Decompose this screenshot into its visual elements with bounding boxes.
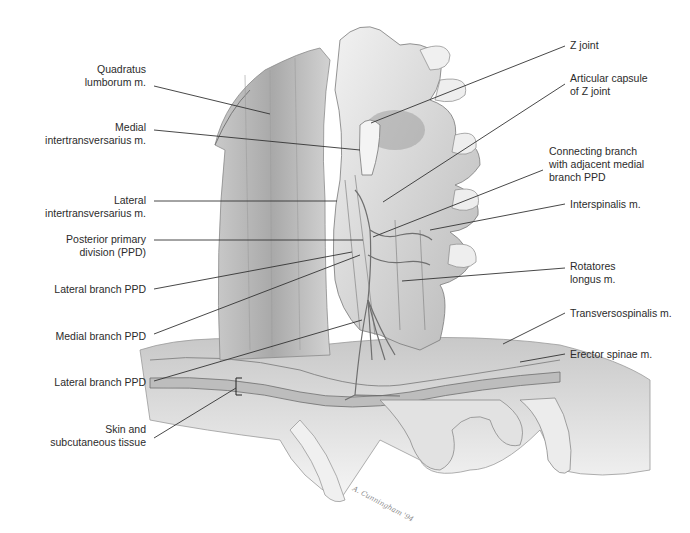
label-medial-intertransversarius: Medialintertransversarius m. xyxy=(45,121,146,147)
label-skin-subcutaneous-tissue: Skin andsubcutaneous tissue xyxy=(50,423,146,449)
label-z-joint: Z joint xyxy=(570,39,599,52)
label-transversospinalis: Transversospinalis m. xyxy=(570,307,672,320)
label-medial-branch-ppd: Medial branch PPD xyxy=(56,330,146,343)
pelvic-base xyxy=(140,338,650,502)
label-rotatores-longus: Rotatoreslongus m. xyxy=(570,260,616,286)
label-erector-spinae: Erector spinae m. xyxy=(570,348,652,361)
label-lateral-intertransversarius: Lateralintertransversarius m. xyxy=(45,194,146,220)
anatomy-figure: A. Cunningham '94 Quadratuslumborum m. M… xyxy=(0,0,690,533)
label-posterior-primary-division: Posterior primarydivision (PPD) xyxy=(66,233,146,259)
label-interspinalis: Interspinalis m. xyxy=(570,198,641,211)
quadratus-lumborum-muscle xyxy=(215,48,330,360)
label-lateral-branch-ppd-2: Lateral branch PPD xyxy=(54,376,146,389)
leader-transversospinalis xyxy=(503,313,565,344)
label-quadratus-lumborum: Quadratuslumborum m. xyxy=(85,63,146,89)
label-lateral-branch-ppd-1: Lateral branch PPD xyxy=(54,283,146,296)
vertebral-column xyxy=(333,27,480,350)
label-articular-capsule: Articular capsuleof Z joint xyxy=(570,72,648,98)
artist-signature: A. Cunningham '94 xyxy=(350,484,415,523)
label-connecting-branch: Connecting branchwith adjacent medialbra… xyxy=(549,145,644,184)
